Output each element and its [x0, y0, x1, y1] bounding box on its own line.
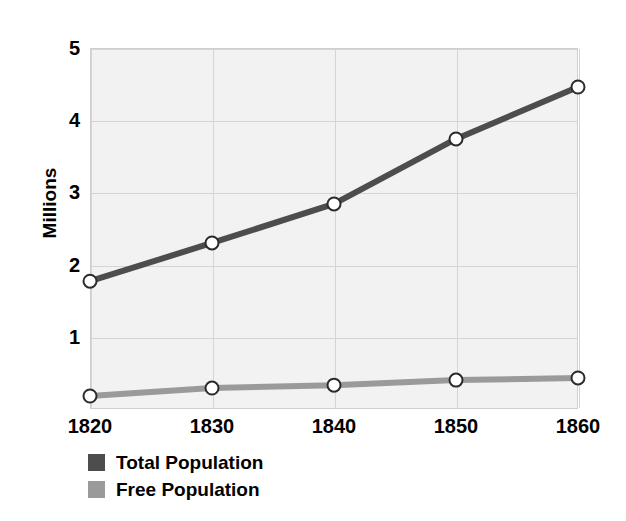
x-axis-tick-label: 1850 — [411, 416, 501, 436]
gridline-vertical — [335, 49, 336, 408]
y-axis-tick-label: 3 — [58, 182, 80, 202]
legend-swatch-icon — [88, 481, 105, 498]
gridline-horizontal — [91, 266, 577, 267]
population-line-chart: Millions 12345 18201830184018501860 Tota… — [0, 0, 626, 521]
gridline-horizontal — [91, 193, 577, 194]
x-axis-tick-label: 1830 — [167, 416, 257, 436]
y-axis-tick-label: 4 — [58, 110, 80, 130]
gridline-horizontal — [91, 338, 577, 339]
gridline-horizontal — [91, 49, 577, 50]
x-axis-tick-label: 1860 — [533, 416, 623, 436]
gridline-vertical — [579, 49, 580, 408]
gridlines — [91, 49, 577, 408]
gridline-vertical — [91, 49, 92, 408]
legend: Total PopulationFree Population — [88, 449, 488, 503]
legend-item: Total Population — [88, 449, 488, 476]
gridline-vertical — [213, 49, 214, 408]
y-axis-tick-label: 2 — [58, 255, 80, 275]
gridline-vertical — [457, 49, 458, 408]
x-axis-tick-label: 1840 — [289, 416, 379, 436]
legend-label: Total Population — [116, 453, 263, 472]
x-axis-tick-label: 1820 — [45, 416, 135, 436]
gridline-horizontal — [91, 121, 577, 122]
legend-item: Free Population — [88, 476, 488, 503]
legend-swatch-icon — [88, 454, 105, 471]
y-axis-title: Millions — [39, 133, 61, 273]
y-axis-tick-label: 1 — [58, 327, 80, 347]
y-axis-tick-label: 5 — [58, 38, 80, 58]
legend-label: Free Population — [116, 480, 260, 499]
plot-area — [90, 48, 578, 409]
